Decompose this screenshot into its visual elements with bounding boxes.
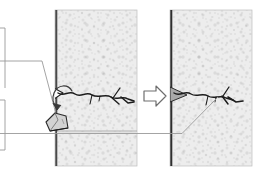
leader-line-tool bbox=[42, 61, 56, 114]
crack-repair-illustration bbox=[0, 0, 262, 180]
wall-texture-overlay-after bbox=[170, 10, 252, 166]
panel-before bbox=[54, 10, 137, 166]
diagram-canvas bbox=[0, 0, 262, 180]
wall-texture-overlay-before bbox=[55, 10, 137, 166]
process-arrow bbox=[144, 86, 166, 106]
arrow-right-icon bbox=[144, 86, 166, 106]
chisel-wedge bbox=[46, 113, 68, 131]
panel-after bbox=[170, 10, 252, 166]
